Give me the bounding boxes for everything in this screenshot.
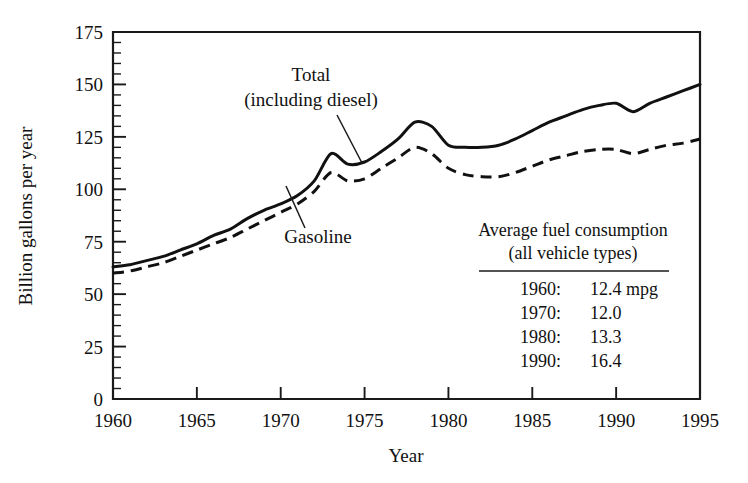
total-leader-line [337, 115, 362, 163]
fuel-consumption-chart: 0255075100125150175 19601965197019751980… [0, 0, 748, 483]
gasoline-annotation-label: Gasoline [284, 226, 352, 247]
inset-row-value: 16.4 [590, 351, 622, 371]
x-axis-major-ticks [197, 387, 616, 399]
y-axis-title: Billion gallons per year [15, 126, 36, 306]
y-tick-label-75: 75 [84, 232, 103, 253]
y-axis-tick-labels: 0255075100125150175 [75, 22, 104, 410]
x-tick-label-1990: 1990 [597, 410, 635, 431]
inset-row-year: 1970: [520, 303, 561, 323]
y-tick-label-150: 150 [75, 74, 104, 95]
x-tick-label-1975: 1975 [346, 410, 384, 431]
chart-svg: 0255075100125150175 19601965197019751980… [0, 0, 748, 483]
y-tick-label-100: 100 [75, 179, 104, 200]
inset-title-line1: Average fuel consumption [478, 220, 668, 240]
inset-row-year: 1990: [520, 351, 561, 371]
inset-row-value: 12.0 [590, 303, 622, 323]
x-tick-label-1970: 1970 [262, 410, 300, 431]
y-tick-label-50: 50 [84, 284, 103, 305]
x-tick-label-1995: 1995 [681, 410, 719, 431]
y-tick-label-175: 175 [75, 22, 104, 43]
y-tick-label-0: 0 [94, 389, 104, 410]
inset-title-line2: (all vehicle types) [509, 243, 638, 264]
total-annotation-line1: Total [292, 64, 331, 85]
inset-row-year: 1960: [520, 279, 561, 299]
x-tick-label-1985: 1985 [513, 410, 551, 431]
x-tick-label-1960: 1960 [94, 410, 132, 431]
inset-fuel-consumption-table: Average fuel consumption (all vehicle ty… [478, 220, 669, 371]
x-axis-tick-labels: 19601965197019751980198519901995 [94, 410, 719, 431]
y-tick-label-25: 25 [84, 337, 103, 358]
gasoline-annotation: Gasoline [284, 186, 352, 247]
y-tick-label-125: 125 [75, 127, 104, 148]
x-tick-label-1980: 1980 [429, 410, 467, 431]
inset-row-value: 13.3 [590, 327, 622, 347]
total-annotation: Total (including diesel) [244, 64, 378, 163]
inset-row-value: 12.4 mpg [590, 279, 658, 299]
x-tick-label-1965: 1965 [178, 410, 216, 431]
y-axis-major-ticks [113, 32, 126, 399]
inset-table-rows: 1960:12.4 mpg1970:12.01980:13.31990:16.4 [520, 279, 658, 371]
total-annotation-line2: (including diesel) [244, 89, 378, 111]
y-axis-minor-ticks [113, 42, 121, 388]
x-axis-title: Year [388, 445, 424, 466]
inset-row-year: 1980: [520, 327, 561, 347]
